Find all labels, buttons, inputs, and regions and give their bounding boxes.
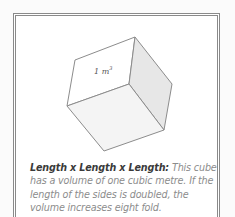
caption-lead: Length x Length x Length:: [30, 162, 169, 173]
figure-caption: Length x Length x Length: This cube has …: [30, 161, 226, 214]
